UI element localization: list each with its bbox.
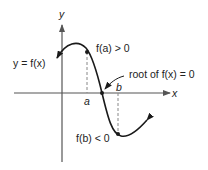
a-label: a xyxy=(84,95,90,107)
fb-label: f(b) < 0 xyxy=(76,132,110,144)
x-axis-label: x xyxy=(171,87,178,99)
root-label: root of f(x) = 0 xyxy=(129,68,195,80)
y-axis-label: y xyxy=(58,8,65,20)
function-curve xyxy=(57,43,147,136)
fa-label: f(a) > 0 xyxy=(96,42,130,54)
root-diagram: y x y = f(x) f(a) > 0 root of f(x) = 0 a… xyxy=(0,0,208,170)
curve-label: y = f(x) xyxy=(13,57,45,69)
b-label: b xyxy=(116,81,122,93)
point-fa xyxy=(85,50,89,54)
point-root xyxy=(100,91,104,95)
point-fb xyxy=(116,132,120,136)
